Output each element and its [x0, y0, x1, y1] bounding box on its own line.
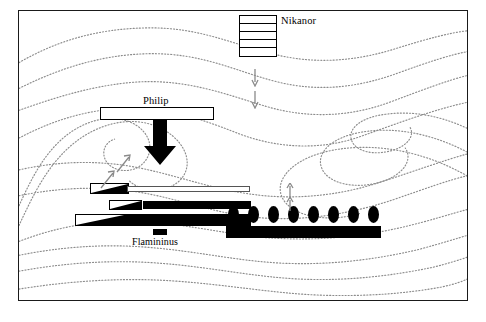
elephant-support-bar [226, 226, 381, 238]
battle-map-figure: Nikanor Philip [0, 0, 486, 322]
elephant-unit [348, 206, 359, 223]
nikanor-block [239, 47, 277, 56]
philip-advance-arrow [143, 119, 177, 166]
elephant-unit [248, 206, 259, 223]
elephant-unit [368, 206, 379, 223]
label-philip: Philip [143, 96, 169, 107]
flamininus-marker [153, 229, 167, 235]
flamininus-row1-bar [127, 186, 250, 192]
elephant-unit [328, 206, 339, 223]
flamininus-row3-wedge [75, 214, 125, 226]
direction-arrow-up [286, 197, 294, 211]
direction-arrow-diagonal [99, 169, 117, 189]
elephant-unit [268, 206, 279, 223]
map-frame: Nikanor Philip [18, 10, 468, 301]
direction-arrow-diagonal [115, 153, 133, 173]
unit-nikanor-stack [239, 15, 277, 55]
elephant-unit [228, 206, 239, 223]
flamininus-row2-wedge [109, 200, 142, 210]
label-nikanor: Nikanor [281, 16, 316, 27]
elephant-unit [308, 206, 319, 223]
direction-arrow-down [251, 69, 259, 87]
label-flamininus: Flamininus [132, 237, 178, 247]
direction-arrow-down [251, 91, 259, 109]
